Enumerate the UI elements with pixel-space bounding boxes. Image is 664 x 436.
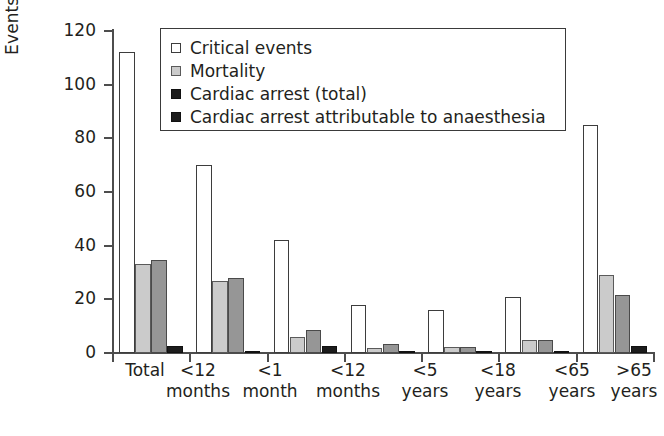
legend-swatch-arrest-anaes-icon: [171, 112, 181, 122]
x-axis-category-line2: months: [310, 381, 386, 402]
bar-critical: [196, 165, 212, 353]
x-axis-category-line2: months: [165, 381, 231, 402]
x-axis-category-line2: years: [604, 381, 664, 402]
legend-item-label: Mortality: [190, 61, 265, 81]
bar-arrest-total: [460, 347, 476, 353]
x-axis-category-line1: >65: [616, 360, 652, 380]
bar-arrest-total: [306, 330, 322, 353]
y-axis-tick: [104, 245, 113, 247]
legend-item: Critical events: [171, 36, 565, 59]
bar-chart-figure: Events/10 000 patients 020406080100120 T…: [0, 0, 664, 436]
y-axis-tick-label: 20: [0, 288, 96, 308]
x-axis-category-label: <1month: [234, 360, 306, 402]
x-axis-category-line2: years: [462, 381, 534, 402]
y-axis-tick-label: 40: [0, 235, 96, 255]
x-axis-category-line2: years: [536, 381, 608, 402]
x-axis-category-line1: <12: [330, 360, 366, 380]
bar-arrest-total: [383, 344, 399, 353]
x-axis-category-line2: month: [234, 381, 306, 402]
x-axis-category-label: <12months: [310, 360, 386, 402]
x-axis-category-label: <18years: [462, 360, 534, 402]
x-axis-category-line1: Total: [125, 360, 165, 380]
y-axis-tick: [104, 84, 113, 86]
x-axis-category-line2: years: [390, 381, 460, 402]
bar-mortality: [367, 348, 383, 353]
y-axis-tick-label: 0: [0, 342, 96, 362]
legend-item: Cardiac arrest (total): [171, 82, 565, 105]
bar-arrest-total: [615, 295, 631, 353]
legend-item-label: Critical events: [190, 38, 312, 58]
legend-swatch-arrest-total-icon: [171, 89, 181, 99]
bar-mortality: [212, 281, 228, 353]
y-axis-tick-label: 60: [0, 181, 96, 201]
bar-mortality: [135, 264, 151, 353]
bar-arrest-anaes: [554, 351, 570, 353]
x-axis-category-line1: <12: [180, 360, 216, 380]
legend-item-label: Cardiac arrest attributable to anaesthes…: [190, 107, 546, 127]
bar-arrest-total: [538, 340, 554, 353]
y-axis-tick: [104, 30, 113, 32]
y-axis-tick: [104, 191, 113, 193]
bar-arrest-anaes: [322, 346, 338, 353]
legend-item-label: Cardiac arrest (total): [190, 84, 367, 104]
bar-critical: [583, 125, 599, 353]
chart-legend: Critical eventsMortalityCardiac arrest (…: [160, 28, 566, 131]
legend-swatch-mortality-icon: [171, 66, 181, 76]
bar-mortality: [290, 337, 306, 353]
bar-critical: [351, 305, 367, 353]
x-axis-category-line1: <1: [257, 360, 282, 380]
legend-item: Mortality: [171, 59, 565, 82]
x-axis-category-label: <12months: [165, 360, 231, 402]
y-axis-tick-label: 80: [0, 127, 96, 147]
bar-arrest-anaes: [476, 351, 492, 353]
bar-mortality: [444, 347, 460, 353]
bar-mortality: [599, 275, 615, 353]
x-axis-category-label: <5years: [390, 360, 460, 402]
x-axis-category-line1: <65: [554, 360, 590, 380]
y-axis-tick: [104, 137, 113, 139]
bar-arrest-anaes: [631, 346, 647, 353]
y-axis-tick: [104, 298, 113, 300]
y-axis-tick-label: 120: [0, 20, 96, 40]
x-axis-category-line1: <5: [412, 360, 437, 380]
bar-critical: [505, 297, 521, 353]
bar-critical: [428, 310, 444, 353]
bar-arrest-total: [151, 260, 167, 353]
x-axis-category-label: <65years: [536, 360, 608, 402]
legend-swatch-critical-icon: [171, 43, 181, 53]
bar-critical: [274, 240, 290, 353]
x-axis-category-label: >65years: [604, 360, 664, 402]
y-axis-tick-label: 100: [0, 74, 96, 94]
bar-mortality: [522, 340, 538, 353]
bar-arrest-anaes: [399, 351, 415, 353]
bar-critical: [119, 52, 135, 353]
bar-arrest-anaes: [167, 346, 183, 353]
bar-group: [583, 31, 660, 353]
bar-arrest-total: [228, 278, 244, 353]
legend-item: Cardiac arrest attributable to anaesthes…: [171, 105, 565, 128]
bar-arrest-anaes: [245, 351, 261, 353]
x-axis-category-line1: <18: [480, 360, 516, 380]
